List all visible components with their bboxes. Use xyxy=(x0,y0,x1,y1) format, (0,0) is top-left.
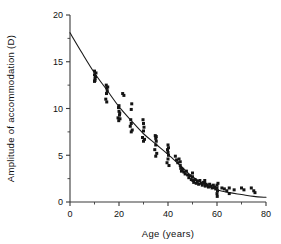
data-point xyxy=(155,140,158,143)
data-point xyxy=(233,188,236,191)
x-tick-label: 80 xyxy=(261,209,271,219)
data-point xyxy=(253,191,256,194)
data-point xyxy=(142,129,145,132)
data-point xyxy=(242,188,245,191)
data-point xyxy=(118,112,121,115)
y-tick-label: 10 xyxy=(53,104,63,114)
data-point xyxy=(130,130,133,133)
data-point xyxy=(167,157,170,160)
x-tick-label: 0 xyxy=(67,209,72,219)
y-tick-label: 20 xyxy=(53,10,63,20)
data-point xyxy=(167,154,170,157)
y-tick-label: 15 xyxy=(53,57,63,67)
data-point xyxy=(174,155,177,158)
y-tick-label: 0 xyxy=(58,197,63,207)
data-point xyxy=(250,186,253,189)
data-point xyxy=(129,118,132,121)
x-tick-label: 40 xyxy=(163,209,173,219)
data-point xyxy=(216,186,219,189)
data-point xyxy=(105,92,108,95)
data-point xyxy=(117,119,120,122)
data-point xyxy=(228,192,231,195)
data-point xyxy=(179,164,182,167)
x-tick-label: 60 xyxy=(212,209,222,219)
x-axis-title: Age (years) xyxy=(142,228,194,239)
data-point xyxy=(130,122,133,125)
data-point xyxy=(216,182,219,185)
data-point xyxy=(179,160,182,163)
data-point xyxy=(130,102,133,105)
data-point xyxy=(178,157,181,160)
data-point xyxy=(130,108,133,111)
data-point xyxy=(94,71,97,74)
data-point xyxy=(225,189,228,192)
data-point xyxy=(153,148,156,151)
data-point xyxy=(216,189,219,192)
data-point xyxy=(228,186,231,189)
data-point xyxy=(106,89,109,92)
data-point xyxy=(154,155,157,158)
x-tick-label: 20 xyxy=(114,209,124,219)
data-point xyxy=(191,172,194,175)
data-point xyxy=(167,143,170,146)
y-axis-title: Amplitude of accommodation (D) xyxy=(5,35,16,182)
data-point xyxy=(142,122,145,125)
data-point xyxy=(104,98,107,101)
data-point xyxy=(185,170,188,173)
data-point xyxy=(203,179,206,182)
data-point xyxy=(167,151,170,154)
data-point xyxy=(93,79,96,82)
data-point xyxy=(154,143,157,146)
data-point xyxy=(198,179,201,182)
data-point xyxy=(105,100,108,103)
data-point xyxy=(216,195,219,198)
data-point xyxy=(155,135,158,138)
fitted-curve xyxy=(70,33,266,198)
data-point xyxy=(129,125,132,128)
data-point xyxy=(216,192,219,195)
accommodation-amplitude-chart: 05101520020406080Age (years)Amplitude of… xyxy=(0,0,281,244)
data-point xyxy=(94,75,97,78)
data-point xyxy=(166,161,169,164)
data-point xyxy=(122,94,125,97)
data-point xyxy=(181,168,184,171)
data-point xyxy=(142,140,145,143)
data-point xyxy=(191,175,194,178)
data-point xyxy=(118,104,121,107)
data-point xyxy=(155,152,158,155)
chart-canvas: 05101520020406080Age (years)Amplitude of… xyxy=(0,0,281,244)
y-tick-label: 5 xyxy=(58,151,63,161)
data-point xyxy=(142,126,145,129)
data-point xyxy=(142,118,145,121)
data-point xyxy=(106,86,109,89)
data-point xyxy=(167,146,170,149)
data-point xyxy=(167,164,170,167)
